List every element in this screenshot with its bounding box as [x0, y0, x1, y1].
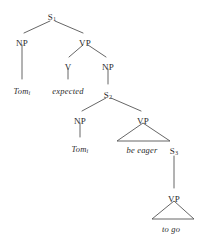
s2-to-np3: [82, 98, 106, 111]
subscript-s1: 1: [53, 15, 56, 22]
terminal-tom-embedded: Tomi: [72, 145, 89, 154]
node-s3: S3: [170, 147, 179, 156]
node-s2: S2: [104, 91, 113, 100]
subscript-s3: 3: [175, 149, 178, 156]
node-np-object-matrix: NP: [102, 63, 114, 72]
node-s1: S1: [48, 13, 57, 22]
s2-to-vp2: [111, 98, 141, 111]
s1-to-vp1: [55, 21, 83, 33]
terminal-be-eager: be eager: [126, 146, 157, 155]
s1-to-np1: [24, 21, 50, 33]
triangle-group: [117, 123, 194, 219]
subscript-tom2: i: [87, 147, 89, 154]
node-vp-matrix: VP: [79, 39, 91, 48]
node-v-matrix: V: [65, 63, 72, 72]
edge-group: [22, 21, 174, 188]
subscript-s2: 2: [109, 93, 112, 100]
node-np-subject-matrix: NP: [16, 39, 28, 48]
terminal-expected: expected: [52, 87, 83, 96]
node-np-subject-embedded: NP: [74, 117, 86, 126]
terminal-tom-matrix: Tomi: [14, 87, 31, 96]
node-vp-embedded: VP: [137, 117, 149, 126]
subscript-tom1: i: [29, 89, 31, 96]
syntax-tree-figure: S1 NP Tomi VP V expected NP S2 NP Tomi V…: [0, 0, 204, 237]
terminal-to-go: to go: [162, 225, 180, 234]
node-vp-infinitival: VP: [168, 195, 180, 204]
